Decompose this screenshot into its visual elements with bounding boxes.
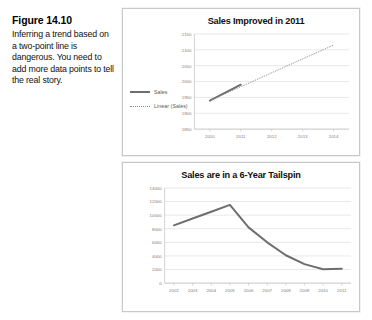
- legend-swatch-dotted-icon: [130, 106, 150, 107]
- x-axis-tick-label: 2003: [188, 288, 198, 293]
- y-axis-tick-label: 6000: [152, 240, 162, 245]
- y-axis-tick-label: 2100: [182, 48, 192, 53]
- x-axis-tick-label: 2011: [236, 134, 246, 139]
- x-axis-tick-label: 2010: [205, 134, 215, 139]
- x-axis-tick-label: 2006: [244, 288, 254, 293]
- y-axis-tick-label: 2000: [182, 79, 192, 84]
- y-axis-tick-label: 0: [159, 281, 162, 286]
- legend-item-linear-sales: Linear (Sales): [130, 101, 192, 111]
- x-axis-tick-label: 2013: [298, 134, 308, 139]
- x-axis-tick-label: 2010: [318, 288, 328, 293]
- y-axis-tick-label: 12000: [150, 199, 163, 204]
- figure-caption-block: Figure 14.10 Inferring a trend based on …: [12, 14, 114, 87]
- y-axis-tick-label: 2150: [182, 32, 192, 37]
- legend-item-sales: Sales: [130, 87, 192, 97]
- chart-title-bottom: Sales are in a 6-Year Tailspin: [123, 170, 359, 180]
- x-axis-tick-label: 2012: [267, 134, 277, 139]
- legend-swatch-solid-icon: [130, 91, 150, 93]
- plot-area-bottom: 0200040006000800010000120001400020022003…: [123, 180, 359, 305]
- y-axis-tick-label: 10000: [150, 213, 163, 218]
- chart-bottom-svg: 0200040006000800010000120001400020022003…: [123, 180, 359, 305]
- chart-title-top: Sales Improved in 2011: [123, 16, 359, 26]
- legend-label-linear-sales: Linear (Sales): [154, 103, 188, 109]
- x-axis-tick-label: 2011: [337, 288, 347, 293]
- y-axis-tick-label: 2050: [182, 64, 192, 69]
- y-axis-tick-label: 4000: [152, 254, 162, 259]
- figure-caption-text: Inferring a trend based on a two-point l…: [12, 29, 114, 87]
- x-axis-tick-label: 2007: [262, 288, 272, 293]
- y-axis-tick-label: 8000: [152, 227, 162, 232]
- y-axis-tick-label: 14000: [150, 186, 163, 191]
- y-axis-tick-label: 2000: [152, 267, 162, 272]
- figure-label: Figure 14.10: [12, 14, 114, 27]
- x-axis-tick-label: 2005: [225, 288, 235, 293]
- series-line-linear-sales: [210, 45, 334, 101]
- legend-label-sales: Sales: [154, 89, 167, 95]
- x-axis-tick-label: 2009: [300, 288, 310, 293]
- chart-legend-top: Sales Linear (Sales): [130, 87, 192, 115]
- y-axis-tick-label: 1850: [182, 127, 192, 132]
- chart-panel-bottom: Sales are in a 6-Year Tailspin 020004000…: [122, 162, 360, 312]
- x-axis-tick-label: 2004: [206, 288, 216, 293]
- x-axis-tick-label: 2014: [329, 134, 339, 139]
- x-axis-tick-label: 2008: [281, 288, 291, 293]
- chart-panel-top: Sales Improved in 2011 18501900195020002…: [122, 8, 360, 156]
- x-axis-tick-label: 2002: [169, 288, 179, 293]
- figure-image: Sales Improved in 2011 18501900195020002…: [122, 8, 362, 312]
- series-line-sales: [174, 205, 342, 269]
